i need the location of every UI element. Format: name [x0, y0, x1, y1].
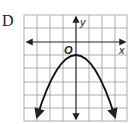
x-axis-label: x — [118, 44, 125, 56]
y-axis-label: y — [79, 16, 87, 28]
coordinate-graph: y x O — [0, 0, 133, 124]
origin-label: O — [64, 44, 73, 56]
